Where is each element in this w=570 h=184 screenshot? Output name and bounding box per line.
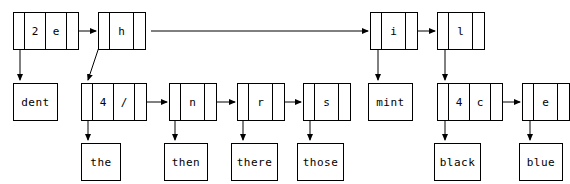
word-box-label: dent — [21, 96, 50, 109]
node-pointer-cell — [170, 84, 181, 120]
word-box-mint[interactable]: mint — [368, 83, 413, 121]
word-box-label: then — [172, 156, 201, 169]
node-pointer-cell — [14, 13, 25, 49]
node-value-cell: e — [534, 84, 558, 120]
node-value-cell: h — [110, 13, 134, 49]
node-next-cell — [406, 13, 417, 49]
node-value-cell: r — [249, 84, 273, 120]
node-value-cell: 4 — [449, 84, 470, 120]
word-box-black[interactable]: black — [434, 143, 481, 181]
node-next-cell — [135, 84, 146, 120]
node-next-cell — [558, 84, 569, 120]
word-box-those[interactable]: those — [297, 143, 344, 181]
list-node-4-slash[interactable]: 4 / — [81, 83, 147, 121]
word-box-the[interactable]: the — [81, 143, 121, 181]
word-box-label: blue — [527, 156, 556, 169]
node-value-cell: s — [315, 84, 339, 120]
list-node-e[interactable]: e — [522, 83, 570, 121]
word-box-label: the — [90, 156, 111, 169]
list-node-4-c[interactable]: 4 c — [437, 83, 503, 121]
word-box-there[interactable]: there — [231, 143, 278, 181]
node-value-cell: l — [449, 13, 473, 49]
list-node-s[interactable]: s — [303, 83, 351, 121]
node-pointer-cell — [523, 84, 534, 120]
node-next-cell — [67, 13, 78, 49]
node-pointer-cell — [438, 84, 449, 120]
node-next-cell — [205, 84, 216, 120]
node-value-cell: 2 — [25, 13, 46, 49]
word-box-label: mint — [376, 96, 405, 109]
node-value-cell: n — [181, 84, 205, 120]
node-value-cell: i — [382, 13, 406, 49]
node-value-cell: 4 — [93, 84, 114, 120]
list-node-n[interactable]: n — [169, 83, 217, 121]
node-pointer-cell — [438, 13, 449, 49]
node-next-cell — [339, 84, 350, 120]
node-value-cell: c — [470, 84, 491, 120]
node-next-cell — [473, 13, 484, 49]
list-node-h[interactable]: h — [98, 12, 146, 50]
node-pointer-cell — [238, 84, 249, 120]
list-node-l[interactable]: l — [437, 12, 485, 50]
node-value-cell: e — [46, 13, 67, 49]
node-next-cell — [491, 84, 502, 120]
word-box-label: there — [237, 156, 273, 169]
word-box-blue[interactable]: blue — [519, 143, 563, 181]
list-node-r[interactable]: r — [237, 83, 285, 121]
node-value-cell: / — [114, 84, 135, 120]
word-box-then[interactable]: then — [164, 143, 208, 181]
word-box-label: those — [303, 156, 339, 169]
node-pointer-cell — [304, 84, 315, 120]
list-node-i[interactable]: i — [370, 12, 418, 50]
word-box-dent[interactable]: dent — [13, 83, 58, 121]
node-next-cell — [273, 84, 284, 120]
node-pointer-cell — [371, 13, 382, 49]
node-pointer-cell — [82, 84, 93, 120]
word-box-label: black — [440, 156, 476, 169]
node-next-cell — [134, 13, 145, 49]
list-node-2e[interactable]: 2 e — [13, 12, 79, 50]
node-pointer-cell — [99, 13, 110, 49]
